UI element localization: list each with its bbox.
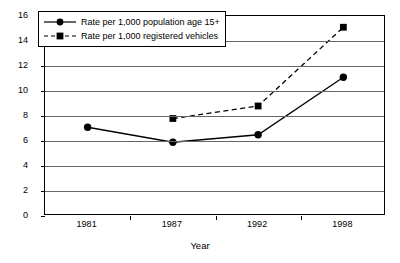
y-axis-tick-label: 0 [0, 210, 28, 220]
gridline [45, 66, 384, 67]
y-axis-tick-label: 12 [0, 60, 28, 70]
data-point-square [340, 24, 347, 31]
gridline [45, 116, 384, 117]
y-axis-tick [41, 191, 45, 192]
y-axis-tick-label: 16 [0, 10, 28, 20]
y-axis-tick-label: 4 [0, 160, 28, 170]
x-axis-tick-label: 1992 [247, 219, 267, 229]
y-axis-tick [41, 166, 45, 167]
legend-key-circle-solid [43, 16, 77, 28]
data-point-circle [254, 131, 261, 138]
gridline [45, 141, 384, 142]
legend-item-vehicles: Rate per 1,000 registered vehicles [43, 29, 220, 43]
y-axis-tick [41, 141, 45, 142]
gridline [45, 91, 384, 92]
line-chart: 0246810121416 Rate 1981198719921998 Year… [0, 0, 400, 263]
legend-item-population: Rate per 1,000 population age 15+ [43, 15, 220, 29]
y-axis-tick-label: 10 [0, 85, 28, 95]
legend-key-square-dashed [43, 30, 77, 42]
y-axis-tick-labels: 0246810121416 [0, 15, 40, 215]
legend-label: Rate per 1,000 registered vehicles [81, 30, 218, 42]
y-axis-tick [41, 216, 45, 217]
x-axis-tick-label: 1998 [332, 219, 352, 229]
data-point-square [255, 103, 262, 110]
y-axis-tick-label: 2 [0, 185, 28, 195]
x-axis-tick-labels: 1981198719921998 [44, 219, 385, 233]
y-axis-tick [41, 91, 45, 92]
gridline [45, 191, 384, 192]
y-axis-tick-label: 6 [0, 135, 28, 145]
x-axis-title: Year [0, 240, 400, 251]
chart-legend: Rate per 1,000 population age 15+ Rate p… [38, 11, 226, 47]
data-point-circle [84, 124, 91, 131]
series-1 [84, 74, 347, 146]
gridline [45, 166, 384, 167]
legend-label: Rate per 1,000 population age 15+ [81, 16, 220, 28]
series-line [88, 77, 344, 142]
y-axis-tick [41, 66, 45, 67]
y-axis-tick-label: 14 [0, 35, 28, 45]
data-point-circle [340, 74, 347, 81]
y-axis-tick [41, 116, 45, 117]
y-axis-tick-label: 8 [0, 110, 28, 120]
x-axis-tick-label: 1987 [162, 219, 182, 229]
x-axis-tick-label: 1981 [77, 219, 97, 229]
data-point-circle [169, 139, 176, 146]
